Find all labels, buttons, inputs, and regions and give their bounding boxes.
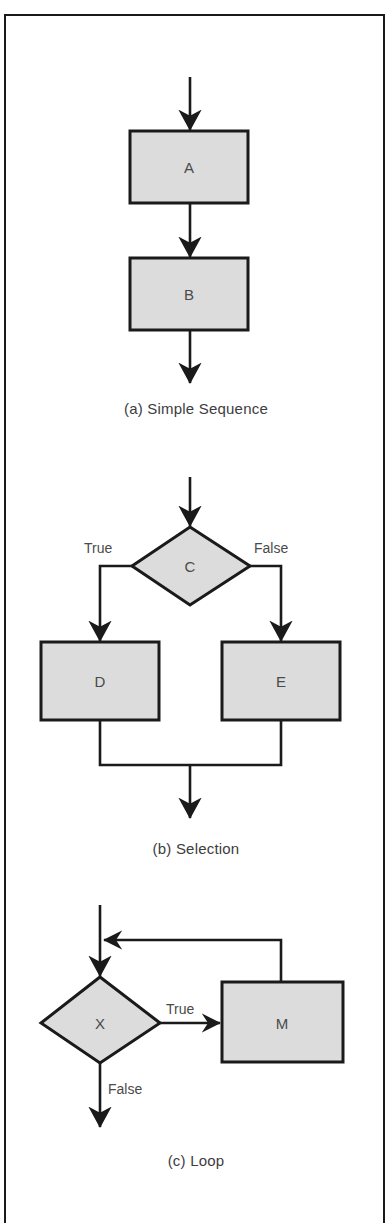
flowchart-canvas: A B C True False D E: [0, 0, 392, 1223]
caption-simple-sequence: (a) Simple Sequence: [0, 400, 392, 417]
edge-label-false-loop: False: [108, 1081, 142, 1097]
node-b-label: B: [184, 286, 194, 303]
caption-selection: (b) Selection: [0, 840, 392, 857]
edge-c-to-d: [100, 566, 132, 641]
node-x-label: X: [95, 1015, 105, 1032]
caption-loop: (c) Loop: [0, 1152, 392, 1169]
edge-label-true-selection: True: [84, 540, 112, 556]
panel-loop: X True M False: [41, 905, 343, 1127]
panel-simple-sequence: A B: [130, 77, 248, 383]
edge-m-to-x-return: [104, 940, 281, 982]
edge-c-to-e: [250, 566, 281, 641]
node-e-label: E: [276, 673, 286, 690]
edge-label-true-loop: True: [166, 1001, 194, 1017]
edge-label-false-selection: False: [254, 540, 288, 556]
panel-selection: C True False D E: [41, 477, 340, 818]
node-c-label: C: [185, 558, 196, 575]
node-m-label: M: [276, 1015, 289, 1032]
node-d-label: D: [95, 673, 106, 690]
edge-merge-rail: [100, 720, 281, 765]
node-a-label: A: [184, 159, 194, 176]
figure-page: A B C True False D E: [0, 0, 392, 1223]
